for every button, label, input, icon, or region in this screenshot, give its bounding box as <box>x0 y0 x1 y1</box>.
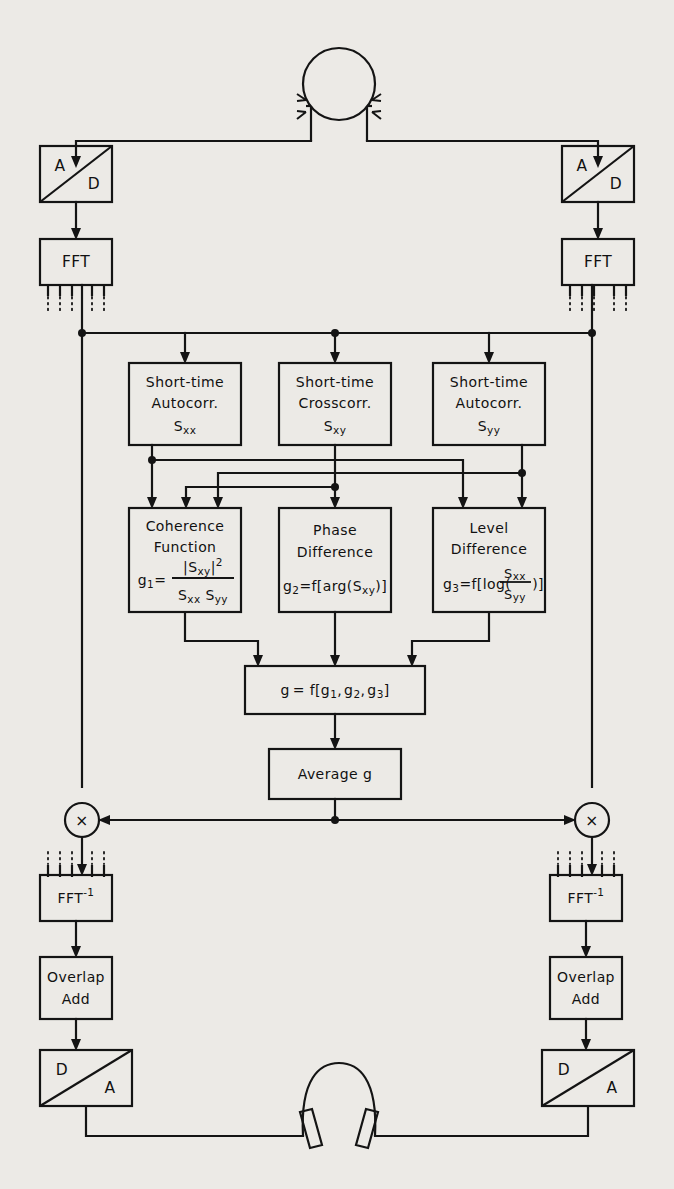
da-converter-left: D A <box>40 1050 132 1106</box>
phase-line1: Phase <box>313 522 357 538</box>
overlap-left-line1: Overlap <box>47 969 105 985</box>
autocorr-right-line2: Autocorr. <box>456 395 523 411</box>
fft-left: FFT <box>40 239 112 285</box>
multiplier-right-symbol: × <box>585 812 598 830</box>
overlap-add-left: Overlap Add <box>40 957 112 1019</box>
signal-flow-diagram: A D A D FFT FFT <box>0 0 674 1189</box>
coherence-line1: Coherence <box>146 518 225 534</box>
fft-right-label: FFT <box>584 253 612 271</box>
autocorr-left-line1: Short-time <box>146 374 224 390</box>
ad-right-input-label: A <box>576 157 587 175</box>
inverse-fft-left: FFT-1 <box>40 875 112 921</box>
multiplier-left-symbol: × <box>75 812 88 830</box>
fft-right: FFT <box>562 239 634 285</box>
short-time-autocorr-yy: Short-time Autocorr. Syy <box>433 363 545 445</box>
coherence-function-block: Coherence Function g1= |Sxy|2 Sxx Syy <box>129 508 241 612</box>
dummy-head-microphone-icon <box>297 48 381 141</box>
combine-block: g= f[g1,g2,g3] <box>245 666 425 714</box>
da-left-output-label: A <box>104 1079 115 1097</box>
g-outputs-routing <box>185 612 489 667</box>
ad-left-output-label: D <box>88 175 100 193</box>
phase-equation: g2=f[arg(Sxy)] <box>283 578 387 596</box>
level-line1: Level <box>470 520 509 536</box>
ifft-left-label: FFT-1 <box>58 886 95 906</box>
level-difference-block: Level Difference g3=f[log( Sxx Syy )] <box>433 508 545 612</box>
short-time-crosscorr-xy: Short-time Crosscorr. Sxy <box>279 363 391 445</box>
coherence-denominator: Sxx Syy <box>178 587 228 605</box>
average-label: Average g <box>298 766 372 782</box>
level-equation-tail: )] <box>532 576 544 592</box>
coherence-numerator: |Sxy|2 <box>183 556 223 577</box>
da-right-output-label: A <box>606 1079 617 1097</box>
fft-right-band-outputs <box>570 285 626 333</box>
bus-left-to-correlators <box>82 333 335 352</box>
autocorr-right-line1: Short-time <box>450 374 528 390</box>
phase-difference-block: Phase Difference g2=f[arg(Sxy)] <box>279 508 391 612</box>
overlap-right-line1: Overlap <box>557 969 615 985</box>
inverse-fft-right: FFT-1 <box>550 875 622 921</box>
phase-line2: Difference <box>297 544 373 560</box>
average-block: Average g <box>269 749 401 799</box>
crosscorr-symbol: Sxy <box>324 418 347 436</box>
overlap-add-right: Overlap Add <box>550 957 622 1019</box>
autocorr-right-symbol: Syy <box>478 418 501 436</box>
multiplier-left: × <box>65 803 99 837</box>
wire-da-to-headphones <box>86 1106 303 1136</box>
crosscorr-line1: Short-time <box>296 374 374 390</box>
average-output-routing <box>98 799 576 825</box>
ifft-left-band-inputs <box>48 852 104 876</box>
headphones-icon <box>300 1063 378 1148</box>
correlator-output-routing <box>147 445 527 509</box>
ifft-right-label: FFT-1 <box>568 886 605 906</box>
fft-left-label: FFT <box>62 253 90 271</box>
coherence-line2: Function <box>154 539 217 555</box>
combine-equation: g= f[g1,g2,g3] <box>280 682 389 700</box>
level-equation-head: g3=f[log( <box>443 576 511 594</box>
crosscorr-line2: Crosscorr. <box>298 395 371 411</box>
short-time-autocorr-xx: Short-time Autocorr. Sxx <box>129 363 241 445</box>
level-fraction-denominator: Syy <box>504 587 526 604</box>
ad-right-output-label: D <box>610 175 622 193</box>
level-fraction-numerator: Sxx <box>504 566 526 583</box>
autocorr-left-symbol: Sxx <box>174 418 197 436</box>
autocorr-left-line2: Autocorr. <box>152 395 219 411</box>
overlap-right-line2: Add <box>572 991 600 1007</box>
multiplier-right: × <box>575 803 609 837</box>
ad-left-input-label: A <box>54 157 65 175</box>
ifft-right-band-inputs <box>558 852 614 876</box>
da-left-input-label: D <box>56 1061 68 1079</box>
level-line2: Difference <box>451 541 527 557</box>
fft-left-band-outputs <box>48 285 104 333</box>
overlap-left-line2: Add <box>62 991 90 1007</box>
da-converter-right: D A <box>542 1050 634 1106</box>
coherence-eq-lhs: g1= <box>138 572 167 590</box>
da-right-input-label: D <box>558 1061 570 1079</box>
